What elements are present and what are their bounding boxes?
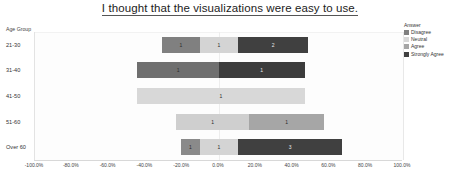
legend-item-label: Strongly Agree — [411, 52, 444, 57]
stacked-bar[interactable]: 11 — [176, 114, 324, 130]
x-axis-tick-label: -80.0% — [63, 162, 79, 168]
x-axis-tick-label: -60.0% — [100, 162, 116, 168]
x-axis-tick-label: 40.0% — [285, 162, 299, 168]
bar-row: 1 — [35, 83, 403, 109]
stacked-bar[interactable]: 112 — [162, 37, 308, 53]
bar-segment[interactable]: 1 — [200, 37, 239, 53]
legend-item-label: Agree — [411, 44, 424, 49]
legend-item[interactable]: Agree — [404, 44, 460, 49]
plot-area: 11211111113 — [34, 32, 404, 160]
y-axis-label: 41-50 — [6, 93, 20, 99]
stacked-bar[interactable]: 1 — [137, 88, 304, 104]
x-axis-tick-label: -20.0% — [173, 162, 189, 168]
bar-segment[interactable]: 1 — [176, 114, 250, 130]
x-axis-tick-label: 0.0% — [212, 162, 223, 168]
legend-swatch-icon — [404, 30, 409, 35]
bar-segment[interactable]: 1 — [200, 139, 239, 155]
bar-segment[interactable]: 1 — [249, 114, 324, 130]
bar-row: 11 — [35, 109, 403, 135]
bar-row: 112 — [35, 32, 403, 58]
x-axis-tick-label: 60.0% — [321, 162, 335, 168]
bar-segment[interactable]: 1 — [137, 62, 219, 78]
stacked-bar[interactable]: 113 — [181, 139, 342, 155]
legend-swatch-icon — [404, 52, 409, 57]
legend-item[interactable]: Disagree — [404, 30, 460, 35]
legend-item[interactable]: Neutral — [404, 37, 460, 42]
x-axis-tick-label: 20.0% — [248, 162, 262, 168]
y-axis-label: 51-60 — [6, 119, 20, 125]
legend: Answer DisagreeNeutralAgreeStrongly Agre… — [404, 22, 460, 59]
bar-row: 113 — [35, 134, 403, 160]
x-axis-tick-label: -40.0% — [136, 162, 152, 168]
y-axis-label: Over 60 — [6, 144, 26, 150]
chart-title-text: I thought that the visualizations were e… — [102, 2, 358, 16]
bar-segment[interactable]: 1 — [181, 139, 199, 155]
bar-segment[interactable]: 1 — [219, 62, 305, 78]
x-axis-line — [34, 160, 402, 161]
legend-item-label: Disagree — [411, 30, 431, 35]
legend-swatch-icon — [404, 44, 409, 49]
bar-segment[interactable]: 2 — [238, 37, 308, 53]
y-axis-label: 31-40 — [6, 67, 20, 73]
x-axis-tick-label: -100.0% — [25, 162, 44, 168]
bar-segment[interactable]: 3 — [238, 139, 342, 155]
x-axis-tick-label: 100.0% — [394, 162, 411, 168]
legend-title: Answer — [404, 22, 460, 28]
bar-segment[interactable]: 1 — [137, 88, 304, 104]
chart-title: I thought that the visualizations were e… — [0, 2, 460, 14]
y-axis-label: 21-30 — [6, 42, 20, 48]
chart-container: I thought that the visualizations were e… — [0, 0, 460, 181]
legend-items: DisagreeNeutralAgreeStrongly Agree — [404, 30, 460, 57]
legend-item-label: Neutral — [411, 37, 427, 42]
y-axis-caption: Age Group — [6, 26, 31, 32]
bar-segment[interactable]: 1 — [162, 37, 200, 53]
x-axis-tick-label: 80.0% — [358, 162, 372, 168]
legend-item[interactable]: Strongly Agree — [404, 52, 460, 57]
legend-swatch-icon — [404, 37, 409, 42]
bar-row: 11 — [35, 58, 403, 84]
stacked-bar[interactable]: 11 — [137, 62, 304, 78]
